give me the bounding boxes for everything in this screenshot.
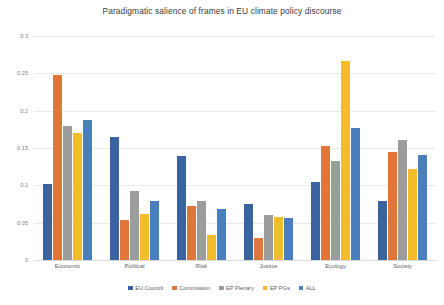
x-axis-label: Justice <box>235 263 302 269</box>
legend-swatch-icon <box>219 286 224 291</box>
bar <box>321 146 330 260</box>
legend-label: ALL <box>306 285 316 291</box>
legend-item[interactable]: EU Council <box>128 285 163 291</box>
bar <box>73 133 82 260</box>
bar <box>244 204 253 260</box>
bar-group <box>34 36 101 260</box>
bar <box>378 201 387 260</box>
bar <box>207 235 216 260</box>
legend-label: EP PGs <box>270 285 290 291</box>
y-axis-tick-label: 0 <box>2 257 28 263</box>
gridline <box>34 260 436 261</box>
legend-swatch-icon <box>263 286 268 291</box>
bar-group <box>369 36 436 260</box>
bar-group <box>235 36 302 260</box>
bar <box>274 217 283 260</box>
bar <box>197 201 206 260</box>
bar <box>217 209 226 260</box>
y-axis-tick-label: 0.1 <box>2 182 28 188</box>
bar <box>351 128 360 260</box>
x-axis-label: Political <box>101 263 168 269</box>
bar <box>341 61 350 260</box>
x-axis-labels: EconomicPoliticalRiskJusticeEcologySocie… <box>34 263 436 269</box>
y-axis-tick-label: 0.05 <box>2 220 28 226</box>
bar <box>177 156 186 260</box>
legend-swatch-icon <box>299 286 304 291</box>
bar <box>418 155 427 260</box>
legend-item[interactable]: Commission <box>172 285 210 291</box>
bar <box>388 152 397 260</box>
bar <box>43 184 52 260</box>
legend-swatch-icon <box>172 286 177 291</box>
chart-title: Paradigmatic salience of frames in EU cl… <box>0 6 444 16</box>
bar <box>120 220 129 260</box>
bar <box>264 215 273 260</box>
bar <box>110 137 119 260</box>
bar <box>140 214 149 260</box>
bar <box>130 191 139 260</box>
bar-group <box>168 36 235 260</box>
legend-label: EU Council <box>135 285 163 291</box>
bar <box>331 161 340 260</box>
bar <box>311 182 320 260</box>
bar <box>408 169 417 260</box>
bar-group <box>101 36 168 260</box>
chart-legend: EU CouncilCommissionEP PlenaryEP PGsALL <box>0 285 444 291</box>
legend-item[interactable]: EP PGs <box>263 285 290 291</box>
y-axis-tick-label: 0.2 <box>2 108 28 114</box>
x-axis-label: Economic <box>34 263 101 269</box>
legend-swatch-icon <box>128 286 133 291</box>
y-axis-tick-label: 0.3 <box>2 33 28 39</box>
x-axis-label: Society <box>369 263 436 269</box>
x-axis-label: Risk <box>168 263 235 269</box>
y-axis-tick-label: 0.15 <box>2 145 28 151</box>
bar <box>254 238 263 260</box>
bar <box>53 75 62 260</box>
plot-area <box>34 36 436 260</box>
legend-item[interactable]: ALL <box>299 285 316 291</box>
bar <box>187 206 196 260</box>
legend-item[interactable]: EP Plenary <box>219 285 254 291</box>
y-axis-tick-label: 0.25 <box>2 70 28 76</box>
bar-chart: Paradigmatic salience of frames in EU cl… <box>0 0 444 305</box>
legend-label: EP Plenary <box>226 285 254 291</box>
bar <box>83 120 92 260</box>
bar-groups <box>34 36 436 260</box>
bar-group <box>302 36 369 260</box>
legend-label: Commission <box>179 285 210 291</box>
bar <box>63 126 72 260</box>
bar <box>150 201 159 260</box>
bar <box>284 218 293 260</box>
bar <box>398 140 407 260</box>
x-axis-label: Ecology <box>302 263 369 269</box>
